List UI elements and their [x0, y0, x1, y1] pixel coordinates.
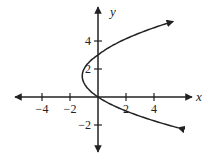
y-tick-label: −2 [78, 118, 91, 132]
parabola-curve [82, 21, 178, 127]
chart: −4−224 −224 x y [0, 0, 208, 160]
x-tick-label: 2 [123, 102, 129, 116]
x-axis-label: x [195, 89, 202, 104]
x-tick-label: −2 [64, 102, 77, 116]
x-tick-label: −4 [36, 102, 49, 116]
y-tick-label: 4 [85, 34, 91, 48]
x-tick-label: 4 [151, 102, 157, 116]
y-axis-label: y [108, 4, 116, 19]
